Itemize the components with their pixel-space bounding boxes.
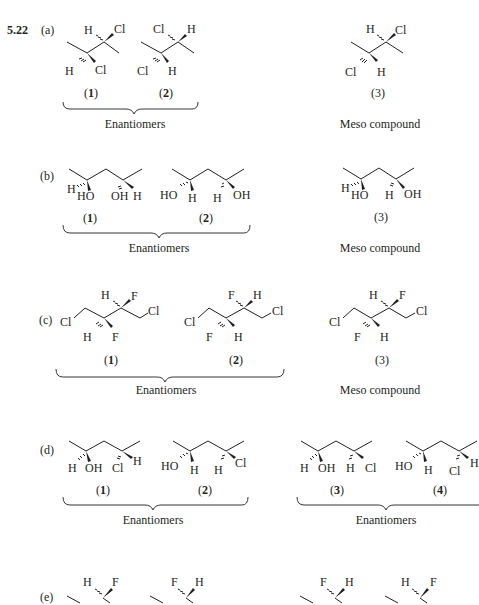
svg-text:H: H xyxy=(83,575,92,589)
svg-text:H: H xyxy=(401,575,410,589)
svg-text:H: H xyxy=(195,575,204,589)
part-e-compound-4: H F xyxy=(385,575,437,603)
svg-text:F: F xyxy=(171,575,178,589)
part-e-compound-3: F H xyxy=(300,575,354,603)
svg-text:H: H xyxy=(345,575,354,589)
part-e-compound-1: H F xyxy=(67,575,119,603)
svg-text:F: F xyxy=(320,575,327,589)
svg-text:F: F xyxy=(112,575,119,589)
svg-text:F: F xyxy=(430,575,437,589)
part-e-compound-2: F H xyxy=(150,575,204,603)
